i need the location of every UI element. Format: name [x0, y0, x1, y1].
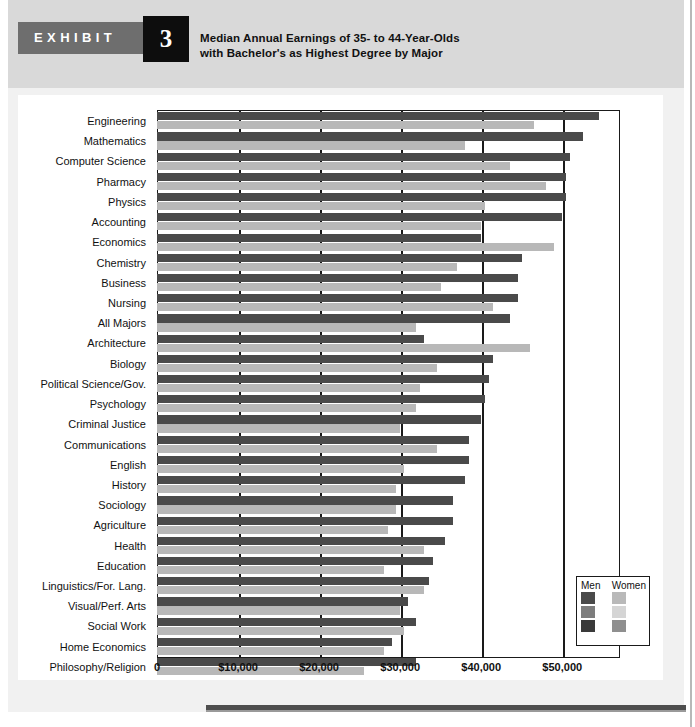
category-label: Social Work [0, 616, 152, 636]
bar-men [157, 456, 469, 464]
category-label: Linguistics/For. Lang. [0, 576, 152, 596]
category-label: Economics [0, 232, 152, 252]
bar-men [157, 395, 485, 403]
bar-men [157, 577, 429, 585]
category-label: Health [0, 536, 152, 556]
bar-women [157, 586, 424, 594]
exhibit-title-line-1: Median Annual Earnings of 35- to 44-Year… [200, 31, 460, 46]
legend-swatch-men [581, 620, 595, 632]
x-axis-ticks: 0$10,000$20,000$30,000$40,000$50,000 [0, 661, 695, 679]
bar-row [157, 414, 619, 434]
legend-swatch-women [612, 606, 626, 618]
bar-women [157, 526, 388, 534]
bar-men [157, 213, 562, 221]
bar-women [157, 121, 534, 129]
bar-row [157, 354, 619, 374]
legend-swatch-women [612, 620, 626, 632]
bar-men [157, 335, 424, 343]
category-label: Education [0, 556, 152, 576]
legend-men-label: Men [581, 580, 612, 591]
category-label: Mathematics [0, 131, 152, 151]
bar-men [157, 496, 453, 504]
bar-men [157, 234, 481, 242]
bar-women [157, 485, 396, 493]
bar-women [157, 162, 510, 170]
bar-men [157, 375, 489, 383]
category-label: Visual/Perf. Arts [0, 596, 152, 616]
bar-row [157, 293, 619, 313]
bar-row [157, 151, 619, 171]
category-label: Communications [0, 435, 152, 455]
exhibit-label: EXHIBIT [34, 30, 116, 45]
legend-row [581, 592, 645, 604]
exhibit-title-line-2: with Bachelor's as Highest Degree by Maj… [200, 46, 460, 61]
bar-women [157, 202, 485, 210]
bar-women [157, 505, 396, 513]
category-label: Physics [0, 192, 152, 212]
category-label: Sociology [0, 495, 152, 515]
bar-women [157, 424, 400, 432]
bar-men [157, 638, 392, 646]
bar-men [157, 557, 433, 565]
bar-row [157, 616, 619, 636]
bar-women [157, 303, 493, 311]
legend-swatch-men [581, 606, 595, 618]
bar-men [157, 173, 566, 181]
bar-rows [157, 111, 619, 657]
bar-row [157, 172, 619, 192]
x-tick-label: $40,000 [461, 661, 501, 673]
bar-men [157, 254, 522, 262]
bar-men [157, 153, 570, 161]
bar-women [157, 566, 384, 574]
bar-row [157, 637, 619, 657]
bar-row [157, 394, 619, 414]
category-label: Psychology [0, 394, 152, 414]
x-tick-label: $30,000 [380, 661, 420, 673]
bar-men [157, 355, 493, 363]
bar-women [157, 606, 400, 614]
bar-row [157, 455, 619, 475]
bar-women [157, 283, 441, 291]
bar-men [157, 537, 445, 545]
category-label: Engineering [0, 111, 152, 131]
bar-women [157, 384, 420, 392]
footer-rule-shadow [206, 710, 686, 712]
bar-row [157, 273, 619, 293]
bar-women [157, 627, 404, 635]
bar-row [157, 576, 619, 596]
bar-men [157, 436, 469, 444]
bar-row [157, 495, 619, 515]
legend-header: Men Women [577, 577, 649, 592]
category-label: English [0, 455, 152, 475]
bar-row [157, 131, 619, 151]
bar-women [157, 404, 416, 412]
bar-row [157, 536, 619, 556]
category-label: Agriculture [0, 515, 152, 535]
chart-legend: Men Women [576, 576, 650, 646]
category-label: Biology [0, 354, 152, 374]
bar-men [157, 132, 583, 140]
legend-swatches [577, 592, 649, 632]
bar-row [157, 232, 619, 252]
category-label: History [0, 475, 152, 495]
bar-women [157, 364, 437, 372]
bar-men [157, 618, 416, 626]
bar-men [157, 415, 481, 423]
bar-row [157, 435, 619, 455]
legend-row [581, 620, 645, 632]
bar-row [157, 374, 619, 394]
category-label: Home Economics [0, 637, 152, 657]
bar-row [157, 333, 619, 353]
bar-women [157, 263, 457, 271]
x-tick-label: 0 [154, 661, 160, 673]
bar-women [157, 182, 546, 190]
bar-row [157, 111, 619, 131]
bar-women [157, 222, 481, 230]
bar-row [157, 192, 619, 212]
legend-women-label: Women [612, 580, 646, 591]
bar-women [157, 323, 416, 331]
category-label: Pharmacy [0, 172, 152, 192]
category-label: Architecture [0, 333, 152, 353]
legend-swatch-women [612, 592, 626, 604]
bar-men [157, 476, 465, 484]
